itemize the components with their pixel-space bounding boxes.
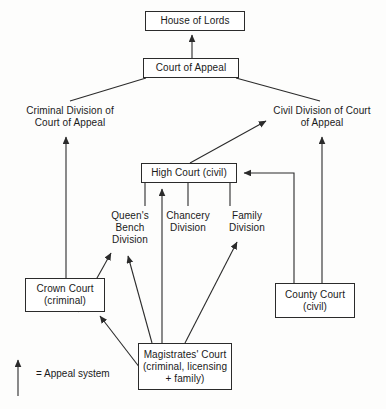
node-label: Chancery Division <box>164 210 212 234</box>
node-queens-bench-division[interactable]: Queen's Bench Division <box>105 208 155 248</box>
node-label: High Court (civil) <box>149 167 229 179</box>
edge-court-of-appeal-to-criminal-division <box>70 78 146 101</box>
edge-magistrates-to-queens-bench <box>128 256 152 343</box>
node-label: Court of Appeal <box>154 62 228 74</box>
node-label: Crown Court (criminal) <box>34 283 95 307</box>
node-magistrates-court[interactable]: Magistrates' Court (criminal, licensing … <box>138 343 232 390</box>
node-court-of-appeal[interactable]: Court of Appeal <box>143 58 239 78</box>
node-label: Civil Division of Court of Appeal <box>271 105 372 129</box>
node-crown-court[interactable]: Crown Court (criminal) <box>25 278 105 312</box>
node-family-division[interactable]: Family Division <box>222 208 272 236</box>
edge-high-court-to-civil-division <box>190 121 266 163</box>
node-high-court[interactable]: High Court (civil) <box>141 163 237 183</box>
node-label: County Court (civil) <box>283 289 347 313</box>
node-label: House of Lords <box>158 15 231 27</box>
node-chancery-division[interactable]: Chancery Division <box>160 208 216 236</box>
court-hierarchy-diagram: House of Lords Court of Appeal Criminal … <box>0 0 386 409</box>
node-criminal-division[interactable]: Criminal Division of Court of Appeal <box>14 104 126 130</box>
node-house-of-lords[interactable]: House of Lords <box>145 11 245 31</box>
node-label: Queen's Bench Division <box>109 210 151 246</box>
node-label: Magistrates' Court (criminal, licensing … <box>141 349 229 385</box>
edge-magistrates-to-family <box>185 242 237 343</box>
edge-magistrates-to-crown-court <box>100 316 140 368</box>
node-label: Criminal Division of Court of Appeal <box>24 105 116 129</box>
node-county-court[interactable]: County Court (civil) <box>275 283 355 318</box>
edge-court-of-appeal-to-civil-division <box>236 78 320 101</box>
node-label: Family Division <box>227 210 267 234</box>
legend-label: = Appeal system <box>36 368 110 380</box>
node-civil-division[interactable]: Civil Division of Court of Appeal <box>263 104 381 130</box>
